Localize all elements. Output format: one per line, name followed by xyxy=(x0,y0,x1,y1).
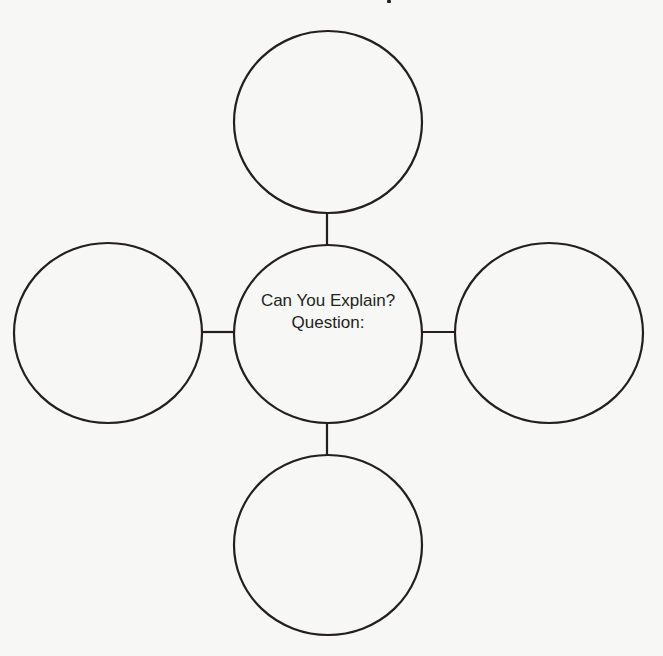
right-bubble[interactable] xyxy=(455,243,643,423)
left-bubble[interactable] xyxy=(14,243,202,423)
center-bubble[interactable] xyxy=(234,245,422,423)
bubble-map-diagram xyxy=(0,0,663,656)
bottom-bubble[interactable] xyxy=(234,455,422,635)
top-bubble[interactable] xyxy=(234,31,422,213)
